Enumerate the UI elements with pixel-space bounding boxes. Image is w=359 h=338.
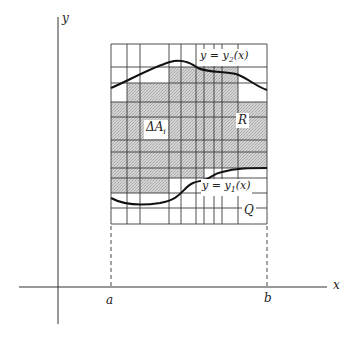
upper-curve-label: y = y2(x) bbox=[199, 49, 250, 66]
rectangle-q-label: Q bbox=[242, 203, 256, 217]
x-axis-label: x bbox=[333, 278, 340, 292]
a-label: a bbox=[106, 293, 113, 307]
delta-a-text: ΔA bbox=[146, 120, 163, 134]
b-label: b bbox=[264, 291, 272, 305]
upper-curve-label-tail: (x) bbox=[234, 49, 249, 62]
diagram: y x a b y = y2(x) y = y1(x) ΔAi R Q bbox=[0, 0, 359, 338]
delta-a-i-label: ΔAi bbox=[144, 120, 168, 139]
lower-curve-label: y = y1(x) bbox=[201, 179, 252, 196]
region-r-label: R bbox=[236, 113, 249, 128]
upper-curve-label-text: y = y bbox=[200, 49, 229, 62]
lower-curve-label-tail: (x) bbox=[236, 179, 251, 192]
lower-curve-label-text: y = y bbox=[202, 179, 231, 192]
delta-a-sub: i bbox=[163, 127, 166, 136]
y-axis-label: y bbox=[62, 11, 69, 25]
